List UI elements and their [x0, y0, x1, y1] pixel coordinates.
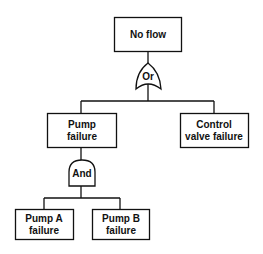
fault-tree-diagram: No flow Or Pump failure Control valve fa… [0, 0, 263, 254]
pumpB-label-2: failure [106, 225, 136, 236]
and-gate-label: And [72, 168, 91, 179]
top-event-label: No flow [130, 29, 166, 40]
pumpA-label-2: failure [29, 225, 59, 236]
valve-failure-label-1: Control [196, 119, 232, 130]
or-gate-label: Or [142, 71, 154, 82]
pump-failure-label-2: failure [67, 131, 97, 142]
pumpB-label-1: Pump B [102, 213, 140, 224]
valve-failure-label-2: valve failure [185, 131, 243, 142]
pumpA-label-1: Pump A [25, 213, 62, 224]
pump-failure-label-1: Pump [68, 119, 96, 130]
